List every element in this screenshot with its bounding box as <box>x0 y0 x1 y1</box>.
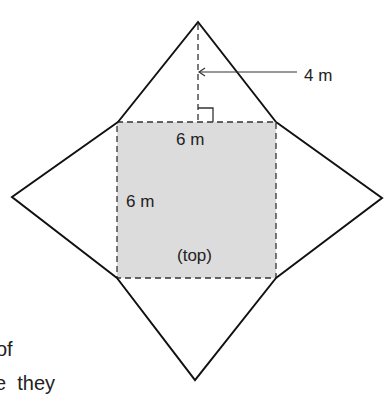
slant-height-label: 4 m <box>304 66 332 85</box>
cut-text-line-2: e they <box>0 372 55 394</box>
cut-text-line-1: of <box>0 338 13 360</box>
right-triangle-edge <box>276 122 382 278</box>
bottom-triangle-edge <box>117 278 276 380</box>
top-width-label: 6 m <box>176 130 204 149</box>
pyramid-net-diagram: 4 m 6 m 6 m (top) of e they <box>0 0 385 397</box>
top-face-label: (top) <box>177 246 212 265</box>
side-length-label: 6 m <box>126 192 154 211</box>
left-triangle-edge <box>12 122 118 278</box>
right-angle-marker <box>198 108 213 122</box>
